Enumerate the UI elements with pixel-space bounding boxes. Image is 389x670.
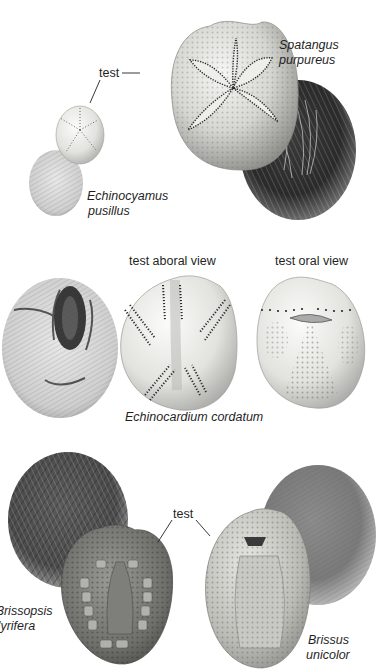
echinocardium-test-oral	[257, 277, 365, 408]
species-label-spatangus-line2: purpureus	[279, 53, 335, 67]
illustration-canvas: test Spatangus purpureus Echinocyamus pu…	[0, 0, 389, 670]
echinocardium-test-aboral	[121, 276, 237, 410]
species-label-brissopsis-line1: 3rissopsis	[0, 604, 53, 618]
brissopsis-test	[61, 525, 172, 664]
echinocyamus-test	[56, 106, 104, 164]
species-label-echinocyamus-line1: Echinocyamus	[87, 189, 168, 203]
test-label-top: test	[99, 66, 119, 80]
species-label-brissopsis-line2: 'yrifera	[0, 619, 35, 633]
species-label-brissus-line1: Brissus	[308, 633, 349, 647]
test-label-bottom: test	[173, 507, 193, 521]
brissus-test	[205, 509, 310, 668]
test-leader-lines-bottom	[158, 520, 210, 542]
species-label-spatangus-line1: Spatangus	[279, 38, 339, 52]
species-label-echinocyamus-line2: pusillus	[88, 204, 130, 218]
view-label-aboral: test aboral view	[129, 254, 216, 268]
species-label-brissus-line2: unicolor	[306, 648, 350, 662]
view-label-oral: test oral view	[275, 254, 348, 268]
echinocardium-live-animal	[2, 278, 118, 418]
illustration-artwork	[0, 0, 389, 670]
species-label-echinocardium: Echinocardium cordatum	[125, 410, 263, 424]
